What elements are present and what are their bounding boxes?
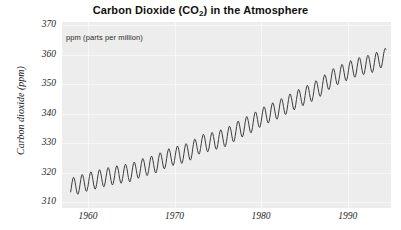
y-tick-label: 340 <box>16 108 56 118</box>
page-title: Carbon Dioxide (CO2) in the Atmosphere <box>0 4 401 16</box>
x-tick-label: 1990 <box>326 211 370 221</box>
title-subscript: 2 <box>199 9 204 18</box>
plot-subtitle: ppm (parts per million) <box>66 33 143 42</box>
y-tick-label: 310 <box>16 196 56 206</box>
y-tick-label: 360 <box>16 49 56 59</box>
y-tick-label: 330 <box>16 137 56 147</box>
x-tick-label: 1980 <box>239 211 283 221</box>
x-tick-label: 1960 <box>66 211 110 221</box>
co2-line-series <box>62 22 391 208</box>
plot-area <box>62 22 391 208</box>
y-tick-label: 370 <box>16 19 56 29</box>
y-tick-label: 320 <box>16 167 56 177</box>
title-tail: ) in the Atmosphere <box>204 4 309 16</box>
y-tick-label: 350 <box>16 78 56 88</box>
title-main: Carbon Dioxide (CO <box>93 4 199 16</box>
x-tick-label: 1970 <box>153 211 197 221</box>
co2-chart: Carbon Dioxide (CO2) in the Atmosphere C… <box>0 0 401 230</box>
